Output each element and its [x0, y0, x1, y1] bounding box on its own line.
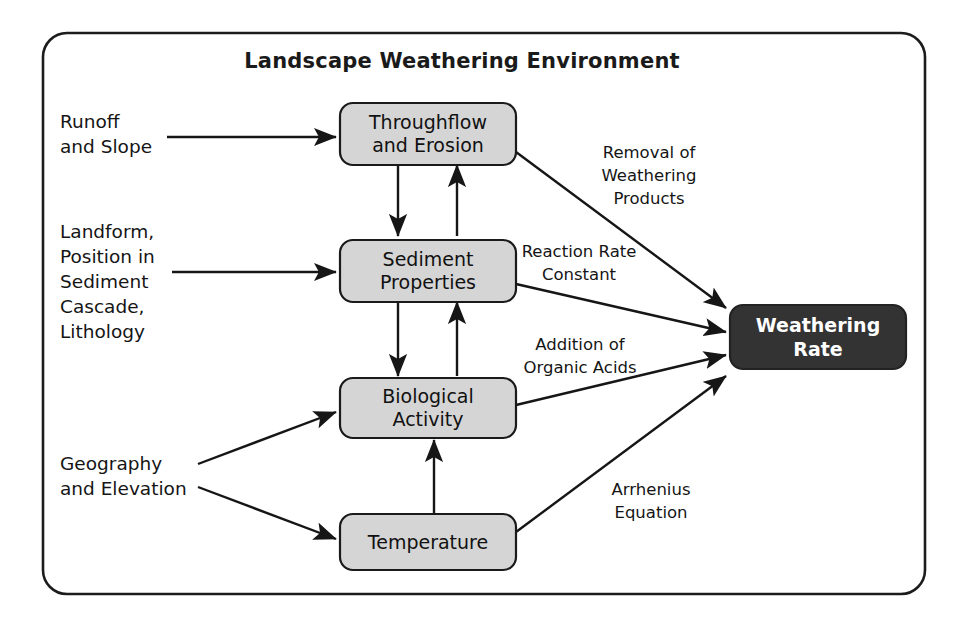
edge-removal-line1: Removal of	[603, 143, 697, 162]
edge-organic-acids-line2: Organic Acids	[523, 358, 636, 377]
edge-label-reaction-rate-constant: Reaction Rate Constant	[522, 242, 637, 284]
edge-reaction-rate-line1: Reaction Rate	[522, 242, 637, 261]
input-runoff-line2: and Slope	[60, 136, 152, 157]
node-temperature[interactable]: Temperature	[340, 514, 516, 570]
edge-arrhenius-line1: Arrhenius	[612, 480, 691, 499]
node-weathering-rate[interactable]: Weathering Rate	[730, 305, 906, 369]
edge-arrhenius-line2: Equation	[614, 503, 687, 522]
input-geography-line2: and Elevation	[60, 478, 187, 499]
input-landform-line2: Position in	[60, 246, 155, 267]
weathering-diagram: Landscape Weathering Environment	[0, 0, 962, 627]
input-geography-line1: Geography	[60, 453, 162, 474]
node-biological-activity[interactable]: Biological Activity	[340, 378, 516, 438]
input-label-landform: Landform, Position in Sediment Cascade, …	[60, 221, 155, 342]
input-runoff-line1: Runoff	[60, 111, 121, 132]
input-landform-line4: Cascade,	[60, 296, 144, 317]
diagram-canvas: Landscape Weathering Environment	[0, 0, 962, 627]
node-weathering-rate-label-line1: Weathering	[756, 314, 881, 336]
edge-geography-to-biological	[198, 412, 336, 464]
edge-geography-to-temperature	[198, 487, 336, 539]
node-biological-label-line1: Biological	[382, 385, 474, 407]
edge-sediment-to-weathering-rate	[516, 284, 726, 332]
node-sediment-label-line2: Properties	[380, 271, 476, 293]
node-weathering-rate-label-line2: Rate	[793, 338, 842, 360]
edge-label-arrhenius-equation: Arrhenius Equation	[612, 480, 691, 522]
input-label-geography: Geography and Elevation	[60, 453, 187, 499]
input-landform-line5: Lithology	[60, 321, 145, 342]
node-temperature-label-line1: Temperature	[367, 531, 488, 553]
edge-reaction-rate-line2: Constant	[542, 265, 617, 284]
input-landform-line3: Sediment	[60, 271, 148, 292]
page-title: Landscape Weathering Environment	[244, 49, 680, 73]
node-biological-label-line2: Activity	[392, 408, 463, 430]
input-landform-line1: Landform,	[60, 221, 154, 242]
edge-label-removal-of-weathering-products: Removal of Weathering Products	[602, 143, 697, 208]
node-sediment-label-line1: Sediment	[383, 248, 474, 270]
node-sediment-properties[interactable]: Sediment Properties	[340, 240, 516, 302]
node-throughflow-and-erosion[interactable]: Throughflow and Erosion	[340, 103, 516, 165]
node-throughflow-label-line1: Throughflow	[368, 111, 487, 133]
edge-organic-acids-line1: Addition of	[535, 335, 625, 354]
input-label-runoff: Runoff and Slope	[60, 111, 152, 157]
edge-removal-line3: Products	[613, 189, 684, 208]
edge-label-addition-of-organic-acids: Addition of Organic Acids	[523, 335, 636, 377]
edge-removal-line2: Weathering	[602, 166, 697, 185]
node-throughflow-label-line2: and Erosion	[372, 134, 484, 156]
